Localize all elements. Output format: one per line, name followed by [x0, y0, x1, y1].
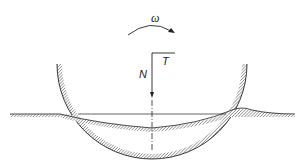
omega-label: ω [151, 11, 159, 25]
normal-force-arrowhead-icon [150, 92, 154, 98]
t-label: T [162, 55, 170, 67]
rotation-arrow-arc [128, 25, 171, 35]
n-label: N [139, 68, 147, 80]
rotation-arrowhead-icon [168, 28, 175, 33]
wheel-contact-diagram: ω T N [0, 0, 308, 165]
